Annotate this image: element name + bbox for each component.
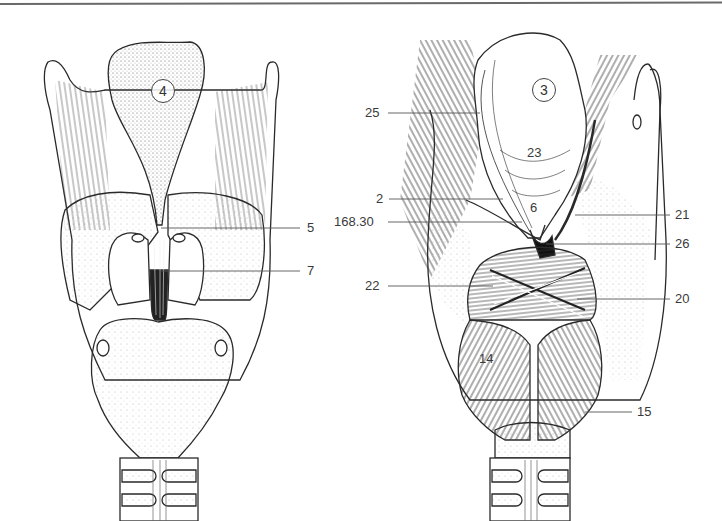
region-label-circle-3: 3 (532, 78, 556, 102)
callout-label-5: 5 (307, 221, 314, 234)
callout-label-15: 15 (637, 405, 651, 418)
callout-label-168-30: 168.30 (334, 215, 374, 228)
left-larynx-drawing (44, 42, 278, 521)
callout-label-22: 22 (365, 279, 379, 292)
callout-label-25: 25 (365, 106, 379, 119)
callout-label-20: 20 (675, 292, 689, 305)
inner-label-23: 23 (527, 146, 541, 159)
larynx-illustrations (0, 0, 722, 521)
inner-label-14: 14 (479, 352, 493, 365)
callout-label-7: 7 (307, 264, 314, 277)
callout-label-26: 26 (675, 237, 689, 250)
callout-label-2: 2 (376, 192, 383, 205)
right-larynx-drawing (400, 33, 666, 521)
region-label-circle-4: 4 (151, 79, 175, 103)
inner-label-6: 6 (530, 201, 537, 214)
callout-label-21: 21 (675, 208, 689, 221)
